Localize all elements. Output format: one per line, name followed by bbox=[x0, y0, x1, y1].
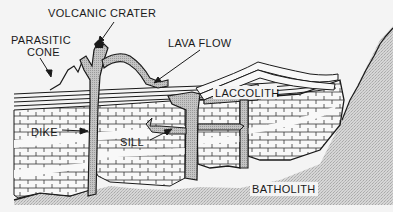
igneous-features-diagram: VOLCANIC CRATER PARASITIC CONE LAVA FLOW… bbox=[0, 0, 393, 212]
lava-flow bbox=[102, 54, 168, 88]
label-parasitic-cone-line2: CONE bbox=[27, 46, 60, 58]
label-volcanic-crater: VOLCANIC CRATER bbox=[48, 7, 156, 19]
label-lava-flow: LAVA FLOW bbox=[168, 37, 232, 49]
label-dike: DIKE bbox=[31, 126, 58, 138]
label-parasitic-cone-line1: PARASITIC bbox=[11, 34, 71, 46]
label-sill: SILL bbox=[120, 136, 144, 148]
label-laccolith: LACCOLITH bbox=[215, 87, 279, 99]
label-batholith: BATHOLITH bbox=[252, 183, 316, 195]
third-dike bbox=[240, 100, 248, 168]
